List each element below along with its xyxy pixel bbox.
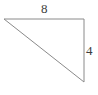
triangle-outline [4, 19, 84, 82]
triangle-svg [0, 0, 98, 95]
right-side-length-label: 4 [86, 44, 93, 57]
top-side-length-label: 8 [41, 2, 48, 15]
triangle-figure: 8 4 [0, 0, 98, 95]
